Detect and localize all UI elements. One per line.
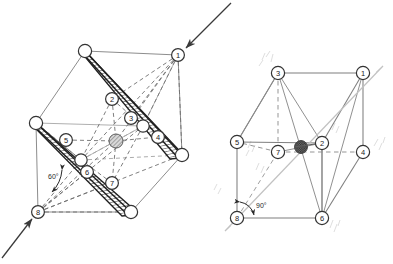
left-upper-close-packed-band <box>85 51 182 160</box>
arrow-into-node-8 <box>2 219 32 258</box>
right-unit-cell: 12345678 90° <box>225 66 383 231</box>
left-numbered-atom-2 <box>106 93 119 106</box>
left-numbered-atom-1 <box>172 49 185 62</box>
left-numbered-atom-7 <box>106 177 119 190</box>
left-numbered-atom-3 <box>125 112 138 125</box>
left-numbered-atom-4 <box>152 131 165 144</box>
left-angle-label: 60° <box>48 173 59 180</box>
figure-canvas: 12345678 60° <box>0 0 393 264</box>
right-numbered-atom-7 <box>271 145 284 158</box>
right-numbered-atom-8 <box>230 211 243 224</box>
left-corner-atom-top <box>78 44 91 57</box>
right-angle-annotation: 90° <box>240 202 267 216</box>
right-angle-label: 90° <box>256 202 267 209</box>
left-numbered-atom-5 <box>60 134 73 147</box>
left-center-atom <box>109 134 123 148</box>
arrow-into-node-1 <box>186 3 231 48</box>
right-numbered-atom-6 <box>315 211 328 224</box>
left-corner-atom-mid-left <box>75 154 87 166</box>
left-numbered-atom-8 <box>32 206 45 219</box>
left-angle-annotation: 60° <box>48 170 62 192</box>
left-corner-atom-right <box>175 148 188 161</box>
right-numbered-atom-2 <box>315 136 328 149</box>
left-corner-atom-upper-left <box>29 116 42 129</box>
crystal-lattice-figure: 12345678 60° <box>0 0 393 264</box>
right-numbered-atom-3 <box>271 66 284 79</box>
left-numbered-atom-6 <box>81 166 94 179</box>
left-corner-atom-bottom <box>124 205 137 218</box>
left-corner-atom-mid-right <box>137 120 149 132</box>
right-numbered-atom-4 <box>356 145 369 158</box>
left-unit-cell: 12345678 60° <box>2 3 231 258</box>
right-numbered-atom-5 <box>230 135 243 148</box>
right-numbered-atom-1 <box>356 66 369 79</box>
